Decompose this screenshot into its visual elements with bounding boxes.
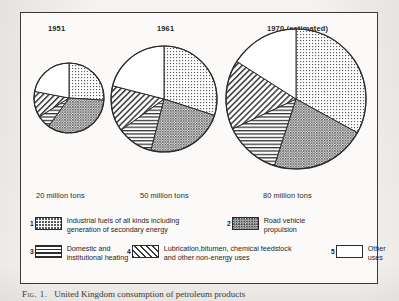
- legend-label-4-line1: Lubrication,bitumen, chemical feedstock: [164, 244, 292, 253]
- legend-label-2-line1: Road vehicle: [264, 216, 306, 225]
- legend-swatch-dense-dots-icon: [232, 217, 259, 230]
- legend-label-3: Domestic and institutional heating: [67, 244, 129, 262]
- legend-number-2: 2: [227, 216, 231, 228]
- legend-label-1-line2: generation of secondary energy: [67, 225, 180, 234]
- legend-swatch-white-icon: [336, 245, 363, 258]
- legend-label-5-line1: Other: [368, 244, 386, 253]
- legend: 1 Industrial fuels of all kinds includin…: [0, 204, 399, 270]
- chart-year-label-1951: 1951: [48, 24, 65, 33]
- figure-caption-number: Fig. 1.: [22, 289, 47, 299]
- figure-caption-text: United Kingdom consumption of petroleum …: [54, 289, 245, 299]
- chart-total-label-1961: 50 million tons: [140, 191, 189, 200]
- legend-label-5-line2: uses: [368, 253, 386, 262]
- chart-total-label-1970: 80 million tons: [263, 191, 312, 200]
- chart-year-label-1961: 1961: [157, 24, 174, 33]
- legend-label-4-line2: and other non-energy uses: [164, 253, 292, 262]
- legend-item-4[interactable]: 4 Lubrication,bitumen, chemical feedstoc…: [127, 244, 292, 262]
- pie-svg-1970: [225, 28, 367, 170]
- pie-chart-1961[interactable]: [110, 45, 218, 153]
- legend-number-3: 3: [30, 244, 34, 256]
- legend-label-2: Road vehicle propulsion: [264, 216, 306, 234]
- legend-label-1-line1: Industrial fuels of all kinds including: [67, 216, 180, 225]
- pie-slice-1951-1[interactable]: [69, 63, 104, 100]
- legend-label-3-line1: Domestic and: [67, 244, 129, 253]
- pie-chart-1970[interactable]: [225, 28, 367, 170]
- legend-item-2[interactable]: 2 Road vehicle propulsion: [227, 216, 305, 234]
- legend-swatch-diagonal-hatch-icon: [132, 245, 159, 258]
- legend-number-1: 1: [30, 216, 34, 228]
- pie-slice-1951-5[interactable]: [35, 63, 69, 98]
- legend-swatch-light-dots-icon: [35, 217, 62, 230]
- legend-item-3[interactable]: 3 Domestic and institutional heating: [30, 244, 128, 262]
- legend-number-5: 5: [331, 244, 335, 256]
- figure-caption: Fig. 1. United Kingdom consumption of pe…: [22, 289, 245, 299]
- legend-item-5[interactable]: 5 Other uses: [331, 244, 386, 262]
- chart-total-label-1951: 20 million tons: [36, 191, 85, 200]
- legend-number-4: 4: [127, 244, 131, 256]
- pie-svg-1961: [110, 45, 218, 153]
- legend-label-5: Other uses: [368, 244, 386, 262]
- pie-chart-1951[interactable]: [33, 62, 105, 134]
- legend-label-2-line2: propulsion: [264, 225, 306, 234]
- legend-label-3-line2: institutional heating: [67, 253, 129, 262]
- legend-label-1: Industrial fuels of all kinds including …: [67, 216, 180, 234]
- legend-label-4: Lubrication,bitumen, chemical feedstock …: [164, 244, 292, 262]
- pie-svg-1951: [33, 62, 105, 134]
- legend-item-1[interactable]: 1 Industrial fuels of all kinds includin…: [30, 216, 179, 234]
- legend-swatch-horizontal-lines-icon: [35, 245, 62, 258]
